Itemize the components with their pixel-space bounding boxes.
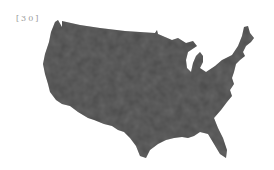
us-map: [0, 0, 274, 170]
us-silhouette: [43, 20, 254, 158]
